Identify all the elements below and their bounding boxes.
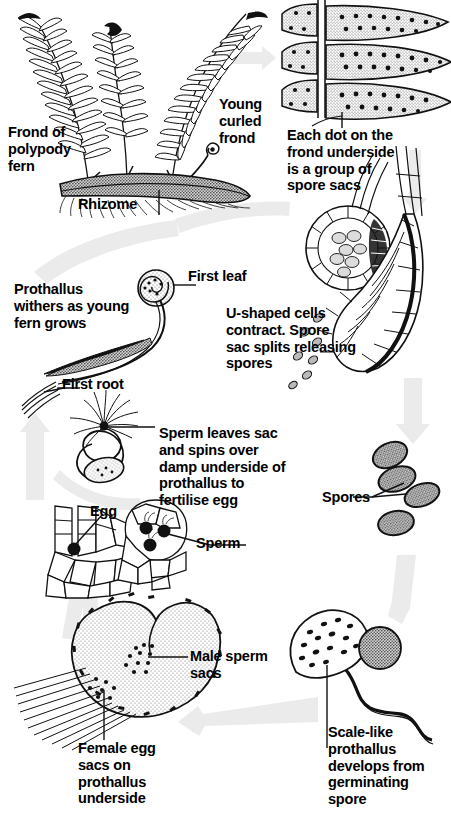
label-female-egg-sacs: Female egg sacs on prothallus underside [78,740,156,807]
label-male-sperm-sacs: Male sperm sacs [190,648,268,682]
art-spores-cluster [353,437,443,538]
label-scale-like-prothallus: Scale-like prothallus develops from germ… [328,724,425,808]
label-u-shaped-cells: U-shaped cells contract. Spore sac split… [226,305,356,372]
fern-life-cycle-figure: Frond of polypody fern Rhizome Young cur… [0,0,451,815]
label-each-dot-spore-sacs: Each dot on the frond underside is a gro… [287,127,394,194]
label-first-leaf: First leaf [188,268,246,285]
label-young-curled-frond: Young curled frond [219,96,262,146]
label-first-root: First root [62,376,124,393]
art-swimming-sperm [70,390,155,486]
label-rhizome: Rhizome [78,196,137,213]
label-spores: Spores [322,489,370,506]
label-sperm: Sperm [196,535,240,552]
art-archegonium-detail [46,506,132,598]
label-prothallus-withers: Prothallus withers as young fern grows [14,281,129,331]
label-sperm-leaves-sac: Sperm leaves sac and spins over damp und… [159,425,285,509]
art-frond-underside-sori [282,0,451,128]
label-frond-of-polypody-fern: Frond of polypody fern [8,124,71,174]
label-egg: Egg [90,503,117,520]
